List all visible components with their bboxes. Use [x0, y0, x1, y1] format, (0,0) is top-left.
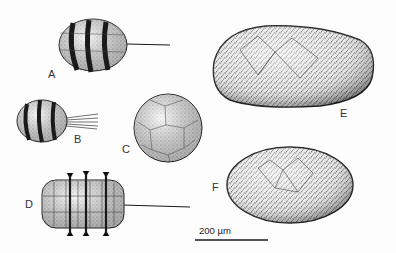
specimen-a: [59, 19, 170, 72]
panel-label-b: B: [74, 134, 81, 145]
illustration-art: [0, 0, 396, 253]
specimen-d: [42, 171, 190, 236]
specimen-e: [213, 26, 373, 107]
panel-label-e: E: [340, 108, 347, 119]
scientific-illustration: A B C D E F 200 µm: [0, 0, 396, 253]
panel-label-d: D: [25, 199, 33, 210]
panel-label-c: C: [122, 144, 130, 155]
scale-bar-label: 200 µm: [199, 226, 231, 236]
panel-label-a: A: [48, 69, 55, 80]
specimen-f: [227, 147, 353, 223]
specimen-c: [134, 94, 202, 162]
panel-label-f: F: [212, 182, 219, 193]
specimen-b: [17, 100, 98, 142]
